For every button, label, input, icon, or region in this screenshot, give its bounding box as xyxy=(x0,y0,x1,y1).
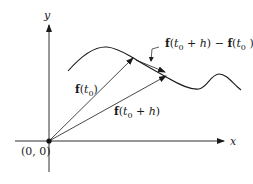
y-axis-label: y xyxy=(43,9,51,22)
vector-function-diagram: x y (0, 0) f(t0) f(t0 + h) f(t0 + h) − f… xyxy=(0,0,253,184)
vector-f-t0-arrow-icon xyxy=(49,58,133,141)
difference-vector-arrow-icon xyxy=(136,60,165,72)
difference-label: f(t0 + h) − f(t0 ) xyxy=(165,37,253,52)
leader-arrow-icon xyxy=(151,47,159,61)
vector-label-f-t0-plus-h: f(t0 + h) xyxy=(114,105,160,120)
x-axis-label: x xyxy=(230,135,237,148)
origin-label: (0, 0) xyxy=(21,145,51,158)
vector-label-f-t0: f(t0) xyxy=(75,83,98,98)
